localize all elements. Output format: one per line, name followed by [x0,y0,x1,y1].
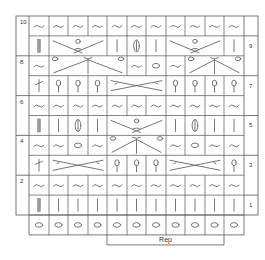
yarn-over-icon [74,223,81,228]
purl-icon [229,105,239,107]
purl-icon [93,25,103,27]
row-label-10: 10 [20,19,27,25]
yarn-over-icon [191,223,198,228]
purl-icon [171,185,181,187]
purl-icon [171,65,181,67]
purl-icon [112,25,122,27]
bobble-icon [154,160,158,166]
fan-line-left [190,60,215,73]
purl-icon [151,25,161,27]
purl-icon [229,25,239,27]
purl-icon [210,185,220,187]
purl-icon [34,65,44,67]
yarn-over-icon [55,223,62,228]
purl-icon [210,105,220,107]
purl-icon [190,25,200,27]
bobble-icon [232,160,236,166]
yarn-over-icon [152,63,159,68]
cross-tick [174,163,176,164]
purl-icon [93,145,103,147]
chart-frame [16,16,258,235]
purl-icon [190,185,200,187]
bobble-icon [134,160,138,166]
purl-icon [34,145,44,147]
cross-tick [115,83,117,84]
row-label-9: 9 [249,43,253,49]
cross-tick [97,163,99,164]
purl-icon [210,25,220,27]
cluster-arc [84,58,92,59]
purl-icon [54,145,64,147]
cluster-arc [133,137,141,138]
yarn-over-icon [94,223,101,228]
purl-icon [73,105,83,107]
yarn-over-icon [35,223,42,228]
purl-icon [210,145,220,147]
bobble-icon [56,80,60,86]
cluster-right-oval [157,137,163,141]
purl-icon [151,185,161,187]
purl-icon [73,25,83,27]
bobble-icon [212,80,216,86]
purl-icon [93,105,103,107]
purl-icon [34,105,44,107]
cluster-arc [211,58,219,59]
yarn-over-icon [211,223,218,228]
row-label-5: 5 [249,122,253,128]
purl-icon [54,25,64,27]
bobble-icon [76,80,80,86]
cluster-right-oval [235,57,241,61]
row-label-4: 4 [20,138,24,144]
knitting-chart: 10987654321 Rep [0,0,265,260]
bobble-icon [115,160,119,166]
cross-line-b [191,41,220,53]
cluster-left-oval [188,57,194,61]
bobble-icon [95,80,99,86]
purl-icon [112,185,122,187]
row-label-3: 3 [249,162,253,168]
yarn-over-icon [113,223,120,228]
yarn-over-icon [74,143,81,148]
purl-icon [73,185,83,187]
yarn-over-icon [133,223,140,228]
fan-line-left [54,60,88,73]
cross-line-b [74,41,103,53]
purl-icon [132,25,142,27]
row-label-8: 8 [20,59,24,65]
purl-icon [54,185,64,187]
cluster-right-oval [118,57,124,61]
double-bar-icon [38,119,41,132]
bobble-icon [193,80,197,86]
yarn-over-icon [172,223,179,228]
bobble-icon [232,80,236,86]
row-label-7: 7 [249,83,253,89]
fan-line-right [137,139,162,152]
cluster-top-circle [76,39,81,43]
cross-tick [214,163,216,164]
cross-line-b [133,120,163,132]
yarn-over-icon [152,223,159,228]
repeat-label: Rep [159,236,172,244]
purl-icon [132,185,142,187]
purl-icon [190,105,200,107]
purl-icon [34,185,44,187]
purl-icon [151,105,161,107]
double-bar-icon [38,199,41,212]
yarn-over-icon [230,223,237,228]
fan-line-left [112,139,137,152]
fan-line-right [88,60,122,73]
purl-icon [229,145,239,147]
purl-icon [132,105,142,107]
cross-tick [57,163,59,164]
row-label-2: 2 [20,178,24,184]
cluster-left-oval [52,57,58,61]
cross-tick [156,83,158,84]
row-label-6: 6 [20,99,24,105]
cluster-top-circle [134,119,139,123]
yarn-over-icon [191,143,198,148]
bobble-icon [173,80,177,86]
purl-icon [112,105,122,107]
double-bar-icon [38,39,41,52]
fan-line-right [215,60,240,73]
cluster-left-oval [110,137,116,141]
